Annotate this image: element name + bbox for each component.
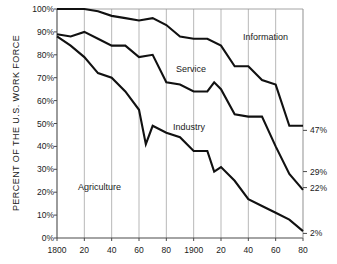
series-label-agriculture: Agriculture: [78, 182, 121, 192]
series-label-industry: Industry: [173, 122, 205, 132]
series-label-service: Service: [176, 64, 206, 74]
chart-container: PERCENT OF THE U.S. WORK FORCE 0%10%20%3…: [0, 0, 337, 264]
series-label-information: Information: [243, 32, 288, 42]
series-boundary-industry: [57, 32, 303, 190]
